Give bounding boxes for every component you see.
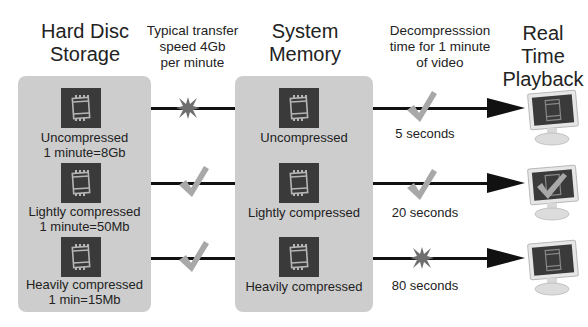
storage-item-2-type: Lightly compressed — [18, 204, 151, 219]
storage-item-2: Lightly compressed 1 minute=50Mb — [18, 204, 151, 234]
memory-item-3: Heavily compressed — [235, 279, 373, 294]
storage-item-3-type: Heavily compressed — [18, 277, 151, 292]
film-icon — [279, 163, 319, 203]
storage-item-3: Heavily compressed 1 min=15Mb — [18, 277, 151, 307]
memory-item-1: Uncompressed — [235, 130, 373, 145]
storage-heading-line1: Hard Disc — [20, 20, 150, 43]
memory-heading: System Memory — [250, 20, 360, 66]
decompression-time-3: 80 seconds — [380, 278, 470, 293]
transfer-heading: Typical transfer speed 4Gb per minute — [140, 23, 245, 71]
check-icon — [406, 168, 438, 202]
storage-item-3-size: 1 min=15Mb — [18, 292, 151, 307]
monitor-icon — [525, 88, 583, 148]
memory-heading-line1: System — [250, 20, 360, 43]
decompression-time-1: 5 seconds — [380, 126, 470, 141]
film-icon — [279, 237, 319, 277]
decompression-heading: Decompresssion time for 1 minute of vide… — [380, 23, 500, 71]
transfer-heading-line1: Typical transfer — [140, 23, 245, 39]
film-icon — [61, 163, 101, 203]
decompression-time-2: 20 seconds — [380, 205, 470, 220]
check-icon — [178, 240, 210, 274]
memory-item-2: Lightly compressed — [235, 205, 373, 220]
decompression-heading-line3: of video — [380, 55, 500, 71]
film-icon — [61, 88, 101, 128]
decompression-heading-line2: time for 1 minute — [380, 39, 500, 55]
arrowhead-1 — [487, 98, 525, 118]
storage-item-1-type: Uncompressed — [18, 130, 151, 145]
cross-icon — [409, 245, 435, 271]
decompression-heading-line1: Decompresssion — [380, 23, 500, 39]
arrowhead-3 — [487, 248, 525, 268]
monitor-icon — [525, 163, 583, 223]
cross-icon — [175, 95, 201, 121]
playback-heading: Real Time Playback — [498, 22, 588, 91]
film-icon — [61, 237, 101, 277]
memory-heading-line2: Memory — [250, 43, 360, 66]
transfer-heading-line2: speed 4Gb — [140, 39, 245, 55]
transfer-heading-line3: per minute — [140, 55, 245, 71]
arrowhead-2 — [487, 173, 525, 193]
storage-item-2-size: 1 minute=50Mb — [18, 219, 151, 234]
storage-item-1: Uncompressed 1 minute=8Gb — [18, 130, 151, 160]
check-icon — [178, 165, 210, 199]
storage-heading: Hard Disc Storage — [20, 20, 150, 66]
storage-heading-line2: Storage — [20, 43, 150, 66]
film-icon — [279, 88, 319, 128]
storage-item-1-size: 1 minute=8Gb — [18, 145, 151, 160]
check-icon — [406, 90, 438, 124]
monitor-icon — [525, 238, 583, 298]
playback-heading-line1: Real Time — [498, 22, 588, 68]
